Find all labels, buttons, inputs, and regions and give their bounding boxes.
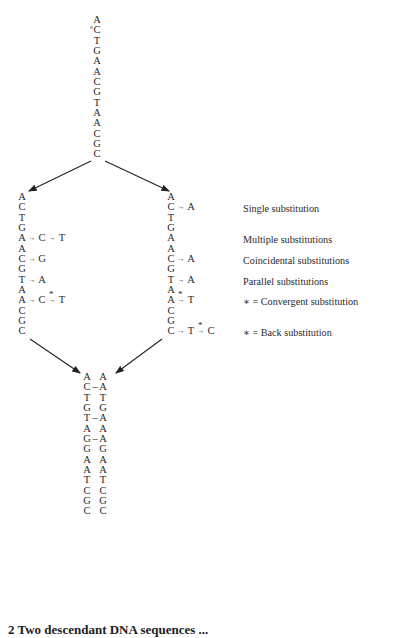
substituted-nucleotide: A xyxy=(187,254,195,264)
sequence-row: C→T→*C xyxy=(167,326,215,336)
substituted-nucleotide: T xyxy=(187,295,195,305)
sequence-row: C xyxy=(18,202,66,212)
substitution-arrow-icon: → xyxy=(26,275,38,285)
substituted-nucleotide: A xyxy=(187,202,195,212)
right-nucleotide: C xyxy=(99,506,107,516)
sequence-row: C xyxy=(18,326,66,336)
substituted-nucleotide: G xyxy=(38,254,46,264)
substituted-nucleotide: C xyxy=(38,233,46,243)
substitution-arrow-icon: → xyxy=(175,254,187,264)
substitution-arrow-icon: → xyxy=(26,233,38,243)
arrow-right-to-descendant xyxy=(116,339,162,373)
star-marker-icon: * xyxy=(49,289,54,299)
substitution-arrow-icon: → xyxy=(175,202,187,212)
label-single-substitution: Single substitution xyxy=(243,203,319,214)
left-lineage: ACTGA→C→TAC→GGT→AAA→C→*TCGC xyxy=(18,192,66,337)
right-lineage: AC→ATGAAC→AGT→AAA→*TCGC→T→*C xyxy=(167,192,215,337)
star-marker-icon: * xyxy=(198,320,203,330)
substituted-nucleotide: T xyxy=(187,326,195,336)
substitution-arrow-icon: → xyxy=(175,326,187,336)
label-convergent-substitution: ∗ = Convergent substitution xyxy=(243,296,358,307)
comparison-row: C C xyxy=(83,506,107,516)
substituted-nucleotide: C xyxy=(207,326,215,336)
substituted-nucleotide: A xyxy=(38,275,46,285)
figure-caption: 2 Two descendant DNA sequences ... xyxy=(8,622,208,638)
substitution-arrow-icon: → xyxy=(175,275,187,285)
label-parallel-substitutions: Parallel substitutions xyxy=(243,276,328,287)
substituted-nucleotide: A xyxy=(187,275,195,285)
substitution-arrow-icon: → xyxy=(26,254,38,264)
arrow-left-to-descendant xyxy=(30,339,80,373)
substituted-nucleotide: C xyxy=(38,295,46,305)
substitution-arrow-icon: → xyxy=(46,233,58,243)
arrow-to-left-lineage xyxy=(29,161,91,191)
nucleotide: C xyxy=(167,326,175,336)
nucleotide: C xyxy=(18,326,26,336)
arrow-to-right-lineage xyxy=(105,161,169,191)
substitution-arrow-icon: → xyxy=(26,295,38,305)
left-nucleotide: C xyxy=(83,506,91,516)
label-coincidental-substitutions: Coincidental substitutions xyxy=(243,255,349,266)
descendant-comparison: A AC–AT TG GT–AA AG–AG GA AA AT TC CG GC… xyxy=(83,372,107,517)
label-multiple-substitutions: Multiple substitutions xyxy=(243,234,332,245)
substituted-nucleotide: T xyxy=(58,295,66,305)
star-marker-icon: * xyxy=(178,289,183,299)
substituted-nucleotide: T xyxy=(58,233,66,243)
spacer xyxy=(91,506,99,516)
label-back-substitution: ∗ = Back substitution xyxy=(243,327,332,338)
sequence-row: C→A xyxy=(167,202,215,212)
